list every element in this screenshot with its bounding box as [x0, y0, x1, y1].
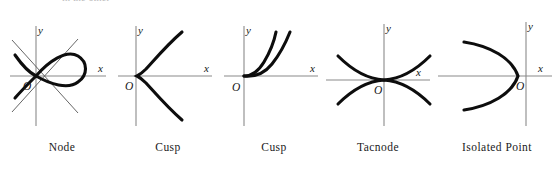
cusp-2-axes: [224, 26, 318, 126]
caption-isolated-point: Isolated Point: [438, 141, 556, 153]
caption-tacnode: Tacnode: [322, 141, 434, 153]
cusp-1-origin-label: O: [125, 80, 134, 92]
isolated-point-diagram: y x O: [438, 14, 556, 134]
caption-node: Node: [6, 141, 118, 153]
cusp-1-axes: [118, 26, 212, 126]
cusp-2-x-axis-label: x: [309, 62, 315, 74]
figure-panel-tacnode: y x O Tacnode: [322, 14, 434, 174]
isolated-point-origin-label: O: [516, 80, 525, 92]
cusp-2-curve-upper: [244, 32, 276, 76]
tacnode-x-axis-label: x: [415, 66, 421, 78]
tacnode-axes: [326, 24, 430, 126]
figure-panel-cusp-2: y x O Cusp: [218, 14, 330, 174]
isolated-point-x-axis-label: x: [537, 62, 543, 74]
cusp-1-x-axis-label: x: [203, 62, 209, 74]
tacnode-origin-label: O: [374, 84, 383, 96]
cusp-2-y-axis-label: y: [245, 24, 251, 36]
cut-off-running-text: in the other: [62, 0, 292, 2]
tacnode-y-axis-label: y: [385, 22, 391, 34]
cusp-1-diagram: y x O: [112, 14, 224, 134]
node-axes: [10, 26, 106, 126]
tacnode-diagram: y x O: [322, 14, 434, 134]
node-origin-label: O: [23, 80, 32, 92]
isolated-point-y-axis-label: y: [527, 20, 533, 32]
node-diagram: y x O: [6, 14, 118, 134]
isolated-point-axes: [438, 22, 552, 126]
cusp-2-diagram: y x O: [218, 14, 330, 134]
singular-points-figure-plate: in the other y x O Node: [0, 0, 557, 175]
node-x-axis-label: x: [97, 62, 103, 74]
figure-panel-isolated-point: y x O Isolated Point: [438, 14, 556, 174]
caption-cusp-1: Cusp: [112, 141, 224, 153]
caption-cusp-2: Cusp: [218, 141, 330, 153]
cusp-1-y-axis-label: y: [137, 24, 143, 36]
cusp-2-origin-label: O: [232, 81, 241, 93]
figure-panel-cusp-1: y x O Cusp: [112, 14, 224, 174]
node-y-axis-label: y: [37, 24, 43, 36]
figure-panel-node: y x O Node: [6, 14, 118, 174]
